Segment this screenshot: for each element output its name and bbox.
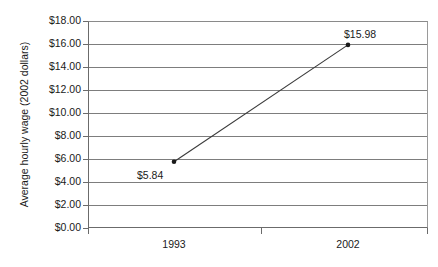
data-series	[0, 0, 438, 267]
series-line	[174, 45, 348, 162]
data-point-1993	[172, 160, 177, 165]
data-label-2002: $15.98	[343, 28, 377, 40]
data-point-2002	[346, 43, 351, 48]
line-chart: Average hourly wage (2002 dollars) $18.0…	[0, 0, 438, 267]
data-label-1993: $5.84	[136, 169, 164, 181]
